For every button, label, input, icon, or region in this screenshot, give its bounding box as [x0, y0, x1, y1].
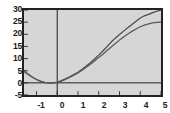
y-tick-label-10: 10 — [2, 54, 22, 62]
y-tick-label-5: 5 — [2, 67, 22, 75]
y-tick-label-minus5: -5 — [2, 91, 22, 99]
y-tick-label-30: 30 — [2, 5, 22, 13]
x-tick-label-2: 2 — [97, 101, 111, 109]
y-tick-label-20: 20 — [2, 29, 22, 37]
x-tick-label-5: 5 — [158, 101, 170, 109]
x-tick-label-1: 1 — [76, 101, 90, 109]
y-tick-label-0: 0 — [2, 79, 22, 87]
curve-upper — [24, 10, 161, 83]
plot-canvas — [24, 10, 161, 95]
y-tick-label-25: 25 — [2, 17, 22, 25]
y-tick-label-15: 15 — [2, 42, 22, 50]
x-tick-label-0: 0 — [55, 101, 69, 109]
chart-figure: 30 25 20 15 10 5 0 -5 -1 0 1 2 3 4 5 — [0, 0, 170, 113]
x-tick-label-4: 4 — [139, 101, 153, 109]
x-tick-label-minus1: -1 — [34, 101, 48, 109]
plot-area — [22, 8, 163, 97]
curve-lower — [24, 22, 161, 83]
x-tick-label-3: 3 — [118, 101, 132, 109]
